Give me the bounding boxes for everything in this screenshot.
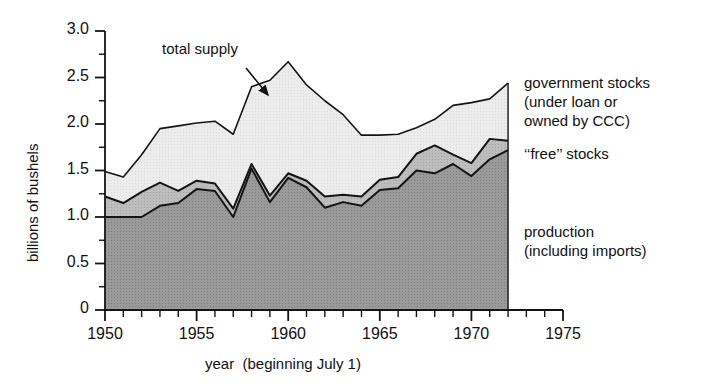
y-tick-1.5: 1.5: [0, 160, 89, 178]
x-tick-1975: 1975: [533, 325, 593, 343]
x-axis-title: year (beginning July 1): [205, 355, 361, 372]
x-tick-1950: 1950: [75, 325, 135, 343]
y-tick-0: 0: [0, 299, 89, 317]
y-tick-2.0: 2.0: [0, 113, 89, 131]
x-tick-1960: 1960: [258, 325, 318, 343]
total-supply-annotation: total supply: [162, 40, 238, 57]
x-tick-1955: 1955: [167, 325, 227, 343]
x-tick-1965: 1965: [350, 325, 410, 343]
legend-government-stocks: government stocks (under loan or owned b…: [524, 73, 650, 130]
y-tick-1.0: 1.0: [0, 206, 89, 224]
y-tick-3.0: 3.0: [0, 20, 89, 38]
x-tick-1970: 1970: [441, 325, 501, 343]
legend-production: production (including imports): [524, 222, 647, 260]
y-tick-2.5: 2.5: [0, 67, 89, 85]
chart-figure: billions of bushels year (beginning July…: [0, 0, 703, 390]
y-tick-0.5: 0.5: [0, 253, 89, 271]
legend-free-stocks: ‘‘free’’ stocks: [524, 144, 609, 163]
